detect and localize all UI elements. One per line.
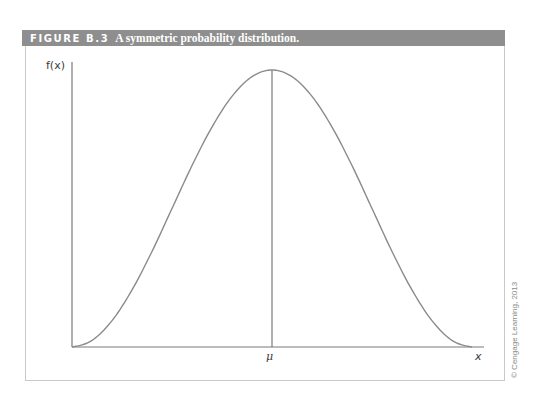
density-plot: [0, 0, 541, 395]
x-axis-label: x: [475, 350, 482, 363]
y-axis-label: f(x): [46, 59, 65, 72]
mean-tick-label: μ: [266, 350, 273, 363]
copyright-notice: © Cengage Learning, 2013: [510, 282, 519, 378]
